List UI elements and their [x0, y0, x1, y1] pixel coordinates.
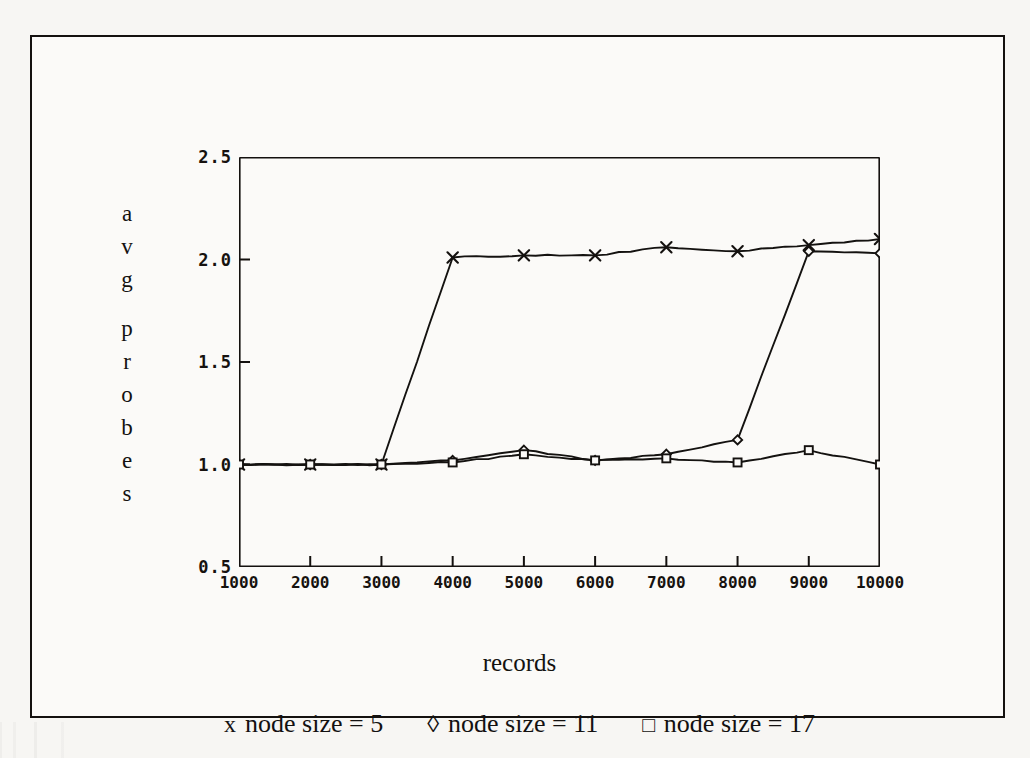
data-point-marker-square [662, 454, 670, 462]
y-axis-title-char: s [110, 477, 144, 510]
legend-label: node size = 11 [448, 709, 598, 739]
legend-entry: ◊node size = 11 [427, 709, 598, 739]
y-axis-tick-label: 1.5 [198, 352, 232, 372]
plot-box [240, 158, 880, 567]
y-axis-title-char: r [110, 345, 144, 378]
series-line [239, 239, 880, 465]
x-axis-tick-labels: 1000200030004000500060007000800090001000… [239, 573, 880, 599]
y-axis-title-char: a [110, 197, 144, 230]
y-axis-title: avgprobes [110, 197, 144, 510]
chart-legend: xnode size = 5◊node size = 11□node size … [32, 709, 1007, 739]
x-axis-title: records [32, 649, 1007, 677]
legend-entry: xnode size = 5 [224, 709, 383, 739]
data-point-marker-square [591, 456, 599, 464]
x-axis-tick-label: 10000 [856, 573, 904, 592]
series-line [239, 251, 880, 465]
y-axis-title-char: v [110, 230, 144, 263]
legend-marker-square-icon: □ [642, 715, 655, 736]
x-axis-tick-label: 5000 [505, 573, 544, 592]
legend-marker-diamond-icon: ◊ [427, 712, 439, 736]
legend-marker-x-icon: x [224, 712, 236, 736]
x-axis-tick-label: 3000 [362, 573, 401, 592]
data-point-marker-diamond [733, 435, 742, 444]
chart-series [239, 247, 880, 469]
x-axis-tick-label: 8000 [718, 573, 757, 592]
data-point-marker-square [520, 450, 528, 458]
y-axis-title-char: e [110, 444, 144, 477]
y-axis-tick-labels: 2.52.01.51.00.5 [154, 157, 232, 567]
data-point-marker-diamond [875, 249, 880, 258]
x-axis-tick-label: 7000 [647, 573, 686, 592]
data-point-marker-square [734, 458, 742, 466]
data-point-marker-square [876, 461, 880, 469]
series-line [239, 450, 880, 465]
x-axis-tick-label: 6000 [576, 573, 615, 592]
y-axis-title-char: b [110, 411, 144, 444]
legend-label: node size = 5 [245, 709, 383, 739]
legend-label: node size = 17 [664, 709, 815, 739]
data-point-marker-square [377, 461, 385, 469]
x-axis-tick-label: 2000 [291, 573, 330, 592]
x-axis-tick-label: 4000 [433, 573, 472, 592]
data-point-marker-square [805, 446, 813, 454]
data-point-marker-square [449, 458, 457, 466]
y-axis-tick-label: 2.0 [198, 250, 232, 270]
y-axis-title-gap [110, 296, 144, 312]
plot-area [239, 157, 880, 567]
figure-frame: avgprobes 2.52.01.51.00.5 10002000300040… [30, 35, 1005, 718]
chart-series [239, 234, 880, 470]
y-axis-tick-label: 2.5 [198, 147, 232, 167]
data-point-marker-square [239, 461, 243, 469]
x-axis-tick-label: 9000 [790, 573, 829, 592]
x-axis-tick-label: 1000 [220, 573, 259, 592]
y-axis-title-char: o [110, 378, 144, 411]
data-point-marker-square [306, 461, 314, 469]
y-axis-title-char: g [110, 263, 144, 296]
y-axis-title-char: p [110, 312, 144, 345]
y-axis-tick-label: 1.0 [198, 455, 232, 475]
chart-canvas [239, 157, 880, 567]
chart-series [239, 446, 880, 468]
legend-entry: □node size = 17 [642, 709, 815, 739]
